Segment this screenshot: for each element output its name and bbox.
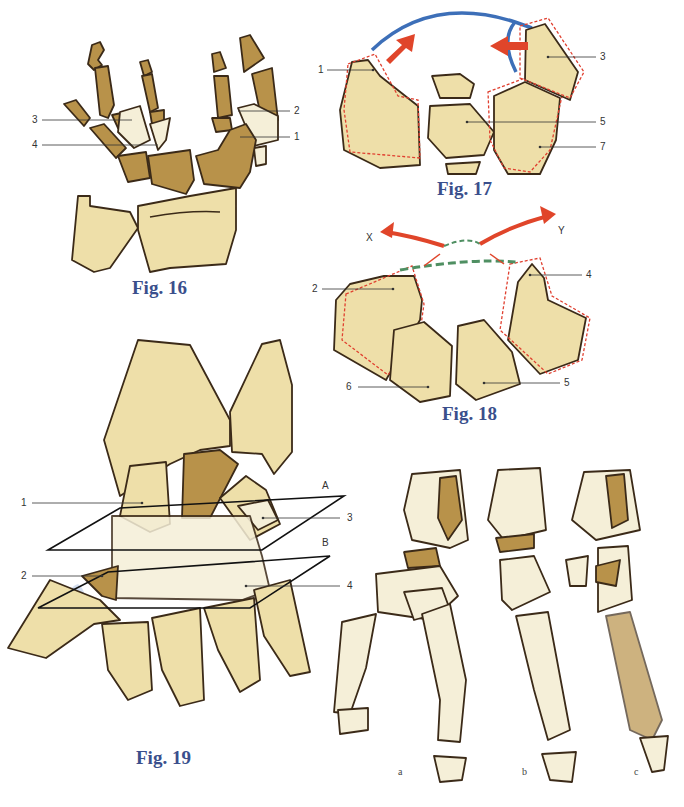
fig18-arrow-x: X — [366, 233, 373, 243]
fig17-label-1: 1 — [318, 65, 324, 75]
figure-19 — [8, 340, 344, 706]
fig19-plane-a: A — [322, 481, 329, 491]
fig17-label-7: 7 — [600, 142, 606, 152]
fig17-label-5: 5 — [600, 117, 606, 127]
fig18-arrow-y: Y — [558, 226, 565, 236]
fig20-sublabel-c: c — [634, 766, 638, 777]
fig19-label-2: 2 — [21, 571, 27, 581]
figure-16 — [64, 35, 278, 272]
fig16-caption: Fig. 16 — [132, 277, 187, 299]
fig18-label-2: 2 — [312, 284, 318, 294]
figure-17 — [327, 13, 596, 174]
anatomy-plate: .b{fill:#eedfa9;stroke:#3b2a18;stroke-wi… — [0, 0, 684, 807]
fig19-plane-b: B — [322, 538, 329, 548]
fig19-label-3: 3 — [347, 513, 353, 523]
figure-20 — [334, 468, 668, 782]
fig19-label-1: 1 — [21, 498, 27, 508]
fig20-sublabel-a: a — [398, 766, 402, 777]
fig18-caption: Fig. 18 — [442, 403, 497, 425]
fig16-label-1: 1 — [294, 132, 300, 142]
figure-18 — [322, 206, 590, 402]
fig16-label-2: 2 — [294, 106, 300, 116]
fig18-label-5: 5 — [564, 378, 570, 388]
fig16-label-4: 4 — [32, 140, 38, 150]
fig17-label-3: 3 — [600, 52, 606, 62]
fig20-sublabel-b: b — [522, 766, 527, 777]
fig18-label-6: 6 — [346, 382, 352, 392]
fig19-label-4: 4 — [347, 581, 353, 591]
fig17-caption: Fig. 17 — [437, 178, 492, 200]
fig18-label-4: 4 — [586, 270, 592, 280]
fig19-caption: Fig. 19 — [136, 747, 191, 769]
fig16-label-3: 3 — [32, 115, 38, 125]
